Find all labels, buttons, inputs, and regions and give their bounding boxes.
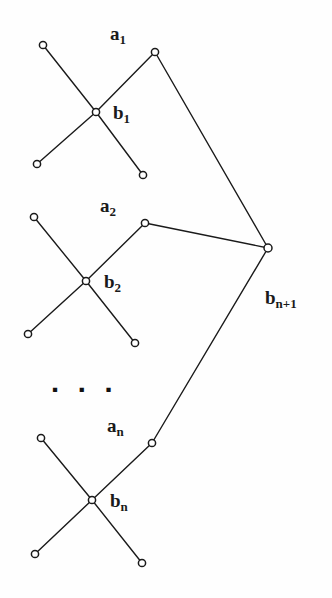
graph-node[interactable] <box>39 41 46 48</box>
graph-edge <box>43 45 96 112</box>
graph-node[interactable] <box>33 160 40 167</box>
graph-node[interactable] <box>24 330 31 337</box>
graph-node[interactable] <box>30 213 37 220</box>
label-base: b <box>110 490 121 511</box>
label-base: b <box>113 102 124 123</box>
label-base: b <box>104 271 115 292</box>
ellipsis-marker: ▪ ▪ ▪ <box>52 381 120 398</box>
label-subscript: n+1 <box>276 296 297 311</box>
graph-node[interactable] <box>31 550 38 557</box>
label-subscript: 1 <box>120 32 127 47</box>
graph-node[interactable] <box>37 434 44 441</box>
graph-edge <box>145 223 268 248</box>
graph-node[interactable] <box>88 496 95 503</box>
graph-node[interactable] <box>141 219 148 226</box>
label-base: a <box>110 23 120 44</box>
label-base: a <box>107 415 117 436</box>
label-subscript: 2 <box>110 204 117 219</box>
node-label-a1: a1 <box>110 24 126 43</box>
graph-edge <box>34 217 86 281</box>
label-subscript: 2 <box>115 280 122 295</box>
graph-edge <box>41 438 92 500</box>
graph-edge <box>155 52 268 248</box>
node-label-b2: b2 <box>104 272 121 291</box>
node-label-bn1: bn+1 <box>265 288 297 307</box>
graph-node[interactable] <box>82 277 89 284</box>
graph-edge <box>35 500 92 554</box>
graph-node[interactable] <box>148 439 155 446</box>
label-subscript: n <box>117 424 124 439</box>
node-label-b1: b1 <box>113 103 130 122</box>
graph-node[interactable] <box>92 108 99 115</box>
label-base: a <box>100 195 110 216</box>
graph-node[interactable] <box>151 48 158 55</box>
node-label-bn: bn <box>110 491 128 510</box>
node-label-an: an <box>107 416 124 435</box>
graph-edge <box>37 112 96 164</box>
graph-figure: a1b1a2b2anbnbn+1 ▪ ▪ ▪ <box>0 0 332 598</box>
graph-node[interactable] <box>264 244 272 252</box>
graph-node[interactable] <box>139 171 146 178</box>
label-subscript: 1 <box>124 111 131 126</box>
label-subscript: n <box>121 499 128 514</box>
graph-edge <box>28 281 86 334</box>
graph-node[interactable] <box>131 339 138 346</box>
label-base: b <box>265 287 276 308</box>
graph-edge <box>152 248 268 443</box>
node-label-a2: a2 <box>100 196 116 215</box>
edge-layer <box>28 45 268 563</box>
graph-node[interactable] <box>138 559 145 566</box>
